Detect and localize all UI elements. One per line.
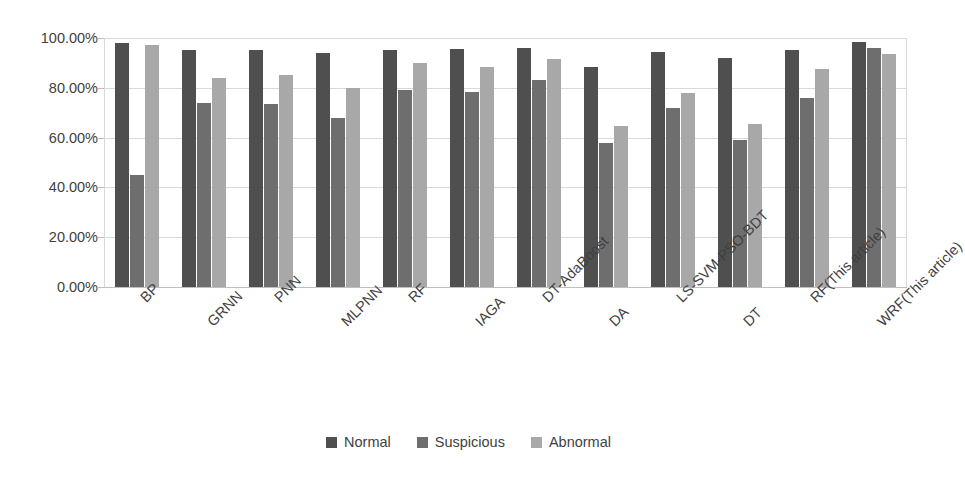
y-axis-tick-label: 40.00% bbox=[6, 179, 98, 195]
bar-suspicious bbox=[398, 90, 412, 287]
y-axis-tick-label: 0.00% bbox=[6, 279, 98, 295]
bar-abnormal bbox=[681, 93, 695, 287]
bar-abnormal bbox=[480, 67, 494, 287]
bar-abnormal bbox=[815, 69, 829, 287]
bar-group bbox=[639, 38, 706, 287]
legend-item[interactable]: Normal bbox=[326, 434, 391, 450]
x-axis-tick-label: DT bbox=[740, 304, 765, 329]
bar-group bbox=[305, 38, 372, 287]
bar-normal bbox=[517, 48, 531, 287]
bar-group bbox=[171, 38, 238, 287]
y-axis-tick-label: 80.00% bbox=[6, 80, 98, 96]
legend-swatch-icon bbox=[531, 437, 542, 448]
legend-swatch-icon bbox=[326, 437, 337, 448]
bar-suspicious bbox=[130, 175, 144, 287]
bar-abnormal bbox=[413, 63, 427, 287]
bar-abnormal bbox=[614, 126, 628, 287]
legend-label: Normal bbox=[344, 434, 391, 450]
legend-label: Abnormal bbox=[549, 434, 611, 450]
legend-label: Suspicious bbox=[435, 434, 505, 450]
legend-item[interactable]: Abnormal bbox=[531, 434, 611, 450]
y-axis-tick-label: 60.00% bbox=[6, 130, 98, 146]
bar-normal bbox=[785, 50, 799, 287]
bar-suspicious bbox=[733, 140, 747, 287]
bar-suspicious bbox=[331, 118, 345, 287]
bar-group bbox=[104, 38, 171, 287]
bar-suspicious bbox=[264, 104, 278, 287]
bar-suspicious bbox=[599, 143, 613, 287]
bar-groups bbox=[104, 38, 907, 287]
bar-normal bbox=[115, 43, 129, 287]
bar-group bbox=[372, 38, 439, 287]
bar-abnormal bbox=[882, 54, 896, 287]
y-axis-tick-label: 20.00% bbox=[6, 229, 98, 245]
legend-item[interactable]: Suspicious bbox=[417, 434, 505, 450]
x-axis-labels: BPGRNNPNNMLPNNRFIAGADT-AdaBoostDALS-SVM-… bbox=[104, 288, 907, 418]
bar-normal bbox=[450, 49, 464, 287]
x-axis-tick-label: IAGA bbox=[472, 293, 508, 329]
bar-group bbox=[506, 38, 573, 287]
bar-abnormal bbox=[212, 78, 226, 287]
bar-abnormal bbox=[346, 88, 360, 287]
bar-abnormal bbox=[547, 59, 561, 287]
bar-group bbox=[439, 38, 506, 287]
x-axis-tick-label: GRNN bbox=[204, 288, 246, 330]
bar-suspicious bbox=[532, 80, 546, 287]
y-axis-labels: 100.00%80.00%60.00%40.00%20.00%0.00% bbox=[0, 38, 98, 287]
bar-normal bbox=[182, 50, 196, 287]
bar-group bbox=[773, 38, 840, 287]
bar-group bbox=[238, 38, 305, 287]
bar-normal bbox=[249, 50, 263, 287]
x-axis-tick-label: MLPNN bbox=[338, 282, 385, 329]
bar-normal bbox=[316, 53, 330, 287]
legend-swatch-icon bbox=[417, 437, 428, 448]
x-axis-tick-label: DA bbox=[606, 304, 632, 330]
bar-abnormal bbox=[145, 45, 159, 287]
bar-suspicious bbox=[197, 103, 211, 287]
bar-suspicious bbox=[666, 108, 680, 287]
bar-suspicious bbox=[465, 92, 479, 287]
bar-suspicious bbox=[800, 98, 814, 287]
bar-abnormal bbox=[279, 75, 293, 287]
y-axis-tick-label: 100.00% bbox=[6, 30, 98, 46]
chart-legend: NormalSuspiciousAbnormal bbox=[0, 434, 937, 450]
bar-normal bbox=[651, 52, 665, 287]
bar-normal bbox=[383, 50, 397, 287]
